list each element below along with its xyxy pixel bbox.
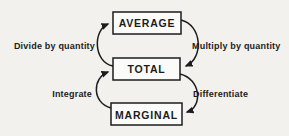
edge-label-integrate: Integrate <box>52 89 92 99</box>
edge-label-multiply: Multiply by quantity <box>192 41 281 51</box>
diagram-canvas: AVERAGE TOTAL MARGINAL Divide by quantit… <box>0 0 289 136</box>
edge-divide-arrow <box>97 24 113 66</box>
node-label-total: TOTAL <box>127 63 165 75</box>
average-total-marginal-diagram: AVERAGE TOTAL MARGINAL Divide by quantit… <box>0 0 289 136</box>
node-label-marginal: MARGINAL <box>115 109 178 121</box>
edge-label-divide: Divide by quantity <box>14 41 95 51</box>
edge-integrate-arrow <box>96 72 111 108</box>
node-label-average: AVERAGE <box>119 17 176 29</box>
edge-label-differentiate: Differentiate <box>193 89 248 99</box>
